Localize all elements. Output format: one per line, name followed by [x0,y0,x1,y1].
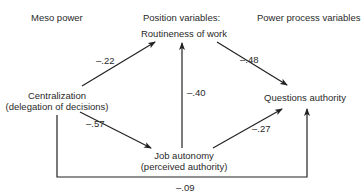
header-meso-power: Meso power [31,12,83,23]
node-questions-authority: Questions authority [264,92,346,103]
coef-centralization-routineness: –.22 [96,55,115,66]
header-power-process-variables: Power process variables [257,12,361,23]
header-position-variables: Position variables: [143,12,220,23]
coef-centralization-job-autonomy: –.57 [86,118,105,129]
coef-routineness-questions-authority: –.48 [240,54,259,65]
node-job-autonomy: Job autonomy (perceived authority) [141,150,228,172]
node-centralization-label: Centralization [6,90,109,101]
arrow-centralization-to-routineness [82,42,155,86]
coef-job-autonomy-routineness: –.40 [187,87,206,98]
coef-centralization-questions-authority: –.09 [176,182,195,193]
node-routineness-of-work: Routineness of work [141,28,227,39]
arrow-job-autonomy-to-questions-authority [213,109,282,148]
node-centralization: Centralization (delegation of decisions) [6,90,109,112]
coef-job-autonomy-questions-authority: –.27 [252,123,271,134]
node-centralization-sublabel: (delegation of decisions) [6,101,109,112]
node-job-autonomy-label: Job autonomy [141,150,228,161]
node-job-autonomy-sublabel: (perceived authority) [141,161,228,172]
